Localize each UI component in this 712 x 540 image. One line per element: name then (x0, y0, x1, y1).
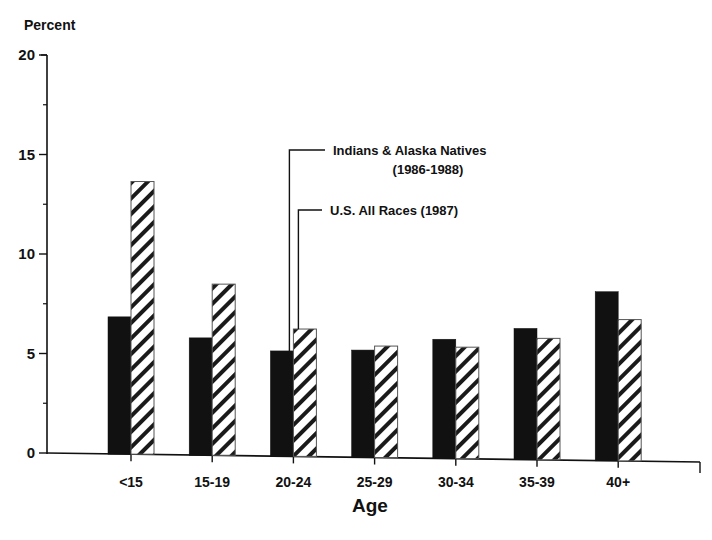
bar-us-all-races (131, 182, 154, 455)
bar-indians-alaska-natives (433, 339, 456, 458)
annotation-label: (1986-1988) (393, 162, 464, 177)
bars (108, 182, 641, 461)
annotation-leader-line (289, 150, 325, 351)
bar-indians-alaska-natives (595, 292, 618, 461)
x-tick-label: 20-24 (275, 474, 311, 490)
bar-chart: Percent Age 05101520<1515-1920-2425-2930… (0, 0, 712, 540)
bar-indians-alaska-natives (108, 317, 131, 454)
x-tick-label: 25-29 (357, 474, 393, 490)
y-tick-label: 20 (18, 46, 35, 63)
annotations: Indians & Alaska Natives(1986-1988)U.S. … (289, 143, 486, 351)
annotation-label: U.S. All Races (1987) (330, 203, 458, 218)
bar-indians-alaska-natives (352, 350, 375, 457)
y-tick-label: 0 (27, 444, 35, 461)
y-tick-label: 5 (27, 345, 35, 362)
bar-indians-alaska-natives (270, 351, 293, 456)
bar-us-all-races (618, 320, 641, 461)
x-tick-label: <15 (119, 474, 143, 490)
x-tick-label: 30-34 (438, 474, 474, 490)
annotation-leader-line (298, 210, 322, 329)
x-tick-label: 40+ (606, 474, 630, 490)
bar-indians-alaska-natives (189, 338, 212, 455)
y-tick-label: 15 (18, 146, 35, 163)
y-tick-label: 10 (18, 245, 35, 262)
bar-indians-alaska-natives (514, 328, 537, 459)
x-tick-label: 15-19 (194, 474, 230, 490)
x-tick-label: 35-39 (519, 474, 555, 490)
y-axis-label: Percent (24, 17, 76, 33)
bar-us-all-races (212, 284, 235, 455)
bar-us-all-races (375, 346, 398, 457)
x-axis-label: Age (352, 495, 388, 516)
bar-us-all-races (293, 329, 316, 456)
annotation-label: Indians & Alaska Natives (333, 143, 486, 158)
bar-us-all-races (456, 347, 479, 458)
bar-us-all-races (537, 338, 560, 459)
